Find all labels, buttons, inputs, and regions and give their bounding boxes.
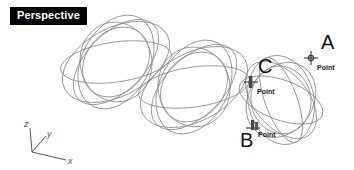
axis-label-y: y: [47, 130, 52, 139]
osnap-label-c: Point: [257, 88, 275, 96]
axis-label-x: x: [68, 157, 73, 166]
axis-label-z: z: [24, 120, 29, 129]
perspective-viewport[interactable]: Perspective A Point C Point B Point z y …: [0, 0, 354, 170]
point-label-c: C: [258, 56, 272, 76]
point-label-a: A: [321, 32, 334, 52]
osnap-label-a: Point: [317, 64, 335, 72]
viewport-title-label[interactable]: Perspective: [10, 7, 87, 25]
osnap-label-b: Point: [258, 131, 276, 139]
world-axes-indicator: z y x: [18, 120, 78, 165]
